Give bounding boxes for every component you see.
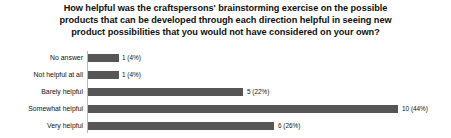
value-label-somewhat-helpful: 10 (44%)	[402, 101, 428, 116]
chart-title: How helpful was the craftspersons' brain…	[8, 2, 443, 38]
bar-row: Not helpful at all 1 (4%)	[0, 67, 451, 84]
category-label-not-helpful-at-all: Not helpful at all	[0, 67, 83, 82]
plot-area: No answer 1 (4%) Not helpful at all 1 (4…	[0, 48, 451, 134]
bar-barely-helpful	[88, 88, 243, 96]
bar-somewhat-helpful	[88, 105, 398, 113]
category-label-somewhat-helpful: Somewhat helpful	[0, 101, 83, 116]
category-label-very-helpful: Very helpful	[0, 118, 83, 133]
bar-chart-figure: How helpful was the craftspersons' brain…	[0, 0, 451, 138]
chart-title-line-3: product possibilities that you would not…	[8, 26, 443, 38]
bar-row: No answer 1 (4%)	[0, 50, 451, 67]
value-label-not-helpful-at-all: 1 (4%)	[122, 67, 141, 82]
category-label-no-answer: No answer	[0, 50, 83, 65]
value-label-barely-helpful: 5 (22%)	[247, 84, 269, 99]
bar-row: Somewhat helpful 10 (44%)	[0, 101, 451, 118]
bar-very-helpful	[88, 122, 274, 130]
bar-not-helpful-at-all	[88, 71, 119, 79]
value-label-very-helpful: 6 (26%)	[278, 118, 300, 133]
chart-title-line-2: products that can be developed through e…	[8, 14, 443, 26]
bar-no-answer	[88, 54, 119, 62]
bar-row: Barely helpful 5 (22%)	[0, 84, 451, 101]
chart-title-line-1: How helpful was the craftspersons' brain…	[8, 2, 443, 14]
value-label-no-answer: 1 (4%)	[122, 50, 141, 65]
category-label-barely-helpful: Barely helpful	[0, 84, 83, 99]
bar-row: Very helpful 6 (26%)	[0, 118, 451, 135]
